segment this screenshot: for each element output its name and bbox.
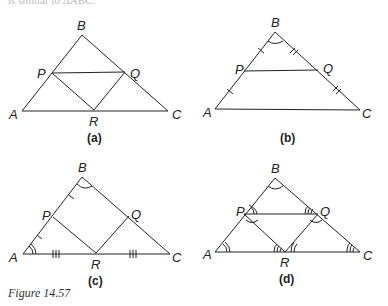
label-a: A [8,107,18,122]
angle-mark-q-2 [308,208,310,214]
angle-mark-a-1 [223,244,227,252]
angle-mark-b [268,186,283,189]
angle-mark-b [268,41,283,44]
segment-qr [96,216,129,253]
panel-d: B P Q A R C (d) [202,161,373,286]
angle-mark-r-1 [291,242,294,252]
caption-d: (d) [279,272,294,286]
label-c: C [172,107,182,122]
angle-mark-c-3 [353,247,355,252]
label-b: B [271,15,280,30]
label-p: P [236,204,245,219]
angle-mark-a-1 [29,246,33,254]
tick-bp [69,195,74,199]
label-c: C [362,106,372,121]
angle-mark-c-2 [350,245,352,252]
panel-c: B P Q A R C (c) [8,160,182,288]
angle-mark-b [77,184,92,188]
label-b: B [78,160,87,175]
label-q: Q [131,207,141,222]
segment-pr [53,217,96,253]
caption-b: (b) [280,131,295,145]
label-a: A [8,250,18,265]
tick-pa [37,235,42,239]
segment-qr [94,72,125,110]
label-p: P [235,62,244,77]
label-r: R [89,114,98,129]
label-b: B [77,18,86,33]
label-c: C [363,248,373,263]
segment-qr [285,214,318,252]
caption-c: (c) [88,274,103,288]
segment-pq [244,70,318,71]
label-a: A [202,105,212,120]
label-c: C [172,250,182,265]
label-q: Q [320,204,330,219]
segment-pr [52,73,94,110]
label-p: P [42,208,51,223]
segment-pq [52,72,125,73]
label-r: R [91,257,100,272]
panel-a: B P Q A R C (a) [8,18,182,145]
label-r: R [280,255,289,270]
label-q: Q [130,66,140,81]
angle-mark-r-4 [277,246,279,252]
label-a: A [202,247,212,262]
tick-bq-1 [290,48,295,53]
angle-mark-q-lower [310,220,322,223]
panel-b: B P Q A C (b) [202,15,372,145]
figure-diagrams: B P Q A R C (a) B P Q A C (b) [0,0,388,306]
label-b: B [271,161,280,176]
label-p: P [37,66,46,81]
angle-mark-r-2 [294,244,297,252]
figure-caption: Figure 14.57 [8,286,70,301]
label-q: Q [323,61,333,76]
caption-a: (a) [87,131,102,145]
